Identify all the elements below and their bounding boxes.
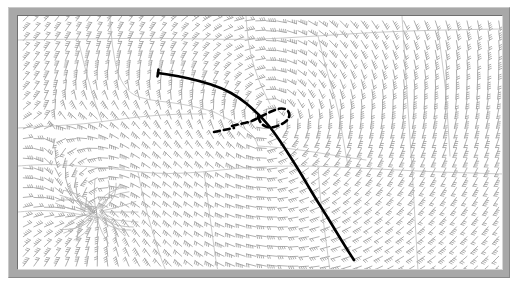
trough-axis-start-tick	[158, 70, 159, 77]
chart-plot-area	[17, 15, 503, 270]
wind-barb-plot	[18, 16, 503, 270]
figure-root	[0, 0, 518, 296]
chart-frame-outer	[8, 7, 510, 278]
